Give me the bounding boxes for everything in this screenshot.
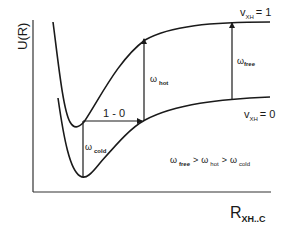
lower-curve-label: vXH= 0 (244, 108, 275, 122)
frequency-relation: ωfree>ωhot>ωcold (170, 155, 250, 167)
x-axis-label: RXH..C (230, 204, 266, 224)
potential-energy-diagram: U(R) RXH..C vXH= 1 vXH= 0 ωfree ωhot ωco… (0, 0, 291, 227)
omega-free-label: ωfree (237, 56, 256, 67)
upper-potential-curve (53, 22, 270, 127)
omega-cold-label: ωcold (85, 142, 107, 154)
one-zero-label: 1 - 0 (103, 107, 125, 119)
y-axis-label: U(R) (15, 23, 30, 50)
upper-curve-label: vXH= 1 (240, 6, 271, 20)
omega-hot-label: ωhot (150, 74, 168, 86)
